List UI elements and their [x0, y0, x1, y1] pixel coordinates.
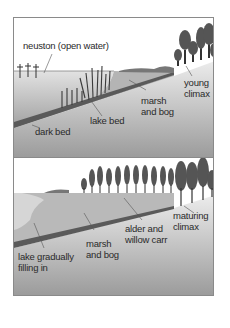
- label-marsh-and-bog: marsh and bog: [86, 239, 119, 260]
- label-lake-bed: lake bed: [90, 116, 124, 127]
- label-marsh-line2: and bog: [141, 107, 174, 118]
- label-alder-willow-carr: alder and willow carr: [125, 224, 167, 245]
- label-marsh-line2: and bog: [86, 250, 119, 261]
- panel-early-stage: neuston (open water) dark bed lake bed m…: [13, 17, 214, 158]
- label-lake-line2: filling in: [18, 263, 74, 274]
- label-marsh-line1: marsh: [141, 96, 174, 107]
- neuston-plants: [17, 63, 39, 78]
- label-lake-filling-in: lake gradually filling in: [18, 252, 74, 273]
- label-neuston: neuston (open water): [23, 41, 109, 52]
- label-climax-line1: maturing: [173, 211, 208, 222]
- marsh-scrub: [119, 66, 174, 73]
- label-lake-line1: lake gradually: [18, 252, 74, 263]
- label-maturing-climax: maturing climax: [173, 211, 208, 232]
- young-climax-trees: [174, 23, 214, 66]
- label-carr-line2: willow carr: [125, 235, 167, 246]
- label-marsh-and-bog: marsh and bog: [141, 96, 174, 117]
- label-marsh-line1: marsh: [86, 239, 119, 250]
- label-climax-line1: young: [184, 78, 210, 89]
- label-climax-line2: climax: [173, 222, 208, 233]
- label-climax-line2: climax: [184, 89, 210, 100]
- label-young-climax: young climax: [184, 78, 210, 99]
- carr-trunks: [84, 185, 171, 193]
- label-dark-bed: dark bed: [35, 127, 70, 138]
- label-carr-line1: alder and: [125, 224, 167, 235]
- panel-late-stage: lake gradually filling in marsh and bog …: [13, 157, 214, 296]
- maturing-climax-trees: [175, 158, 214, 191]
